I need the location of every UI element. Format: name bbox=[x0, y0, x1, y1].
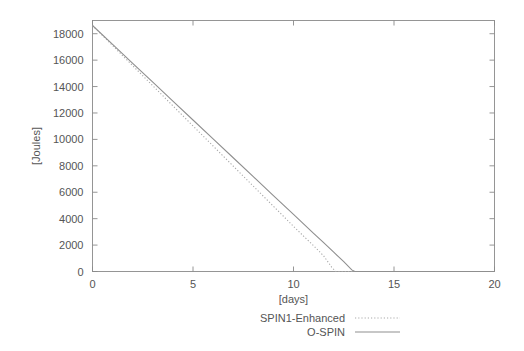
legend-label-1: O-SPIN bbox=[307, 326, 345, 338]
x-axis-tick-label: 10 bbox=[287, 278, 299, 290]
y-axis-tick-label: 8000 bbox=[59, 160, 83, 172]
x-axis-tick-label: 0 bbox=[89, 278, 95, 290]
legend-label-0: SPIN1-Enhanced bbox=[260, 312, 345, 324]
y-axis-tick-label: 10000 bbox=[53, 133, 84, 145]
chart-figure: 0510152002000400060008000100001200014000… bbox=[0, 0, 524, 351]
y-axis-tick-label: 4000 bbox=[59, 213, 83, 225]
series-line-0 bbox=[93, 26, 495, 272]
plot-frame bbox=[93, 21, 495, 272]
y-axis-tick-label: 12000 bbox=[53, 107, 84, 119]
y-axis-label: [Joules] bbox=[30, 127, 42, 165]
y-axis-tick-label: 18000 bbox=[53, 28, 84, 40]
x-axis-tick-label: 15 bbox=[388, 278, 400, 290]
x-axis-tick-label: 5 bbox=[190, 278, 196, 290]
y-axis-tick-label: 2000 bbox=[59, 239, 83, 251]
y-axis-tick-label: 14000 bbox=[53, 81, 84, 93]
x-axis-label: [days] bbox=[279, 293, 308, 305]
series-line-1 bbox=[93, 26, 495, 272]
y-axis-tick-label: 6000 bbox=[59, 186, 83, 198]
energy-vs-days-line-chart: 0510152002000400060008000100001200014000… bbox=[0, 0, 524, 351]
y-axis-tick-label: 0 bbox=[77, 266, 83, 278]
y-axis-tick-label: 16000 bbox=[53, 54, 84, 66]
x-axis-tick-label: 20 bbox=[488, 278, 500, 290]
